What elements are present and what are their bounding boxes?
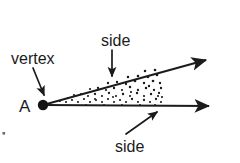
side-top-label: side [101,32,130,49]
lower-ray [43,105,209,106]
point-a-label: A [19,97,31,116]
upper-ray [43,60,206,105]
angle-diagram-canvas: vertex A side side [0,0,240,163]
vertex-pointer-arrow [33,68,44,95]
angle-interior-stipple [59,69,163,106]
scan-speck [3,132,6,135]
vertex-point-dot [38,100,48,110]
side-bottom-pointer-arrow [126,112,157,134]
side-bottom-label: side [115,138,144,155]
vertex-label: vertex [11,50,55,67]
angle-diagram: vertex A side side [0,0,240,163]
